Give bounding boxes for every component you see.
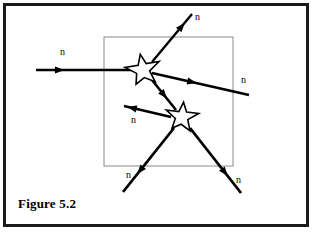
incoming-neutron-ray <box>36 66 131 73</box>
incoming-neutron-ray-arrowhead <box>55 66 65 73</box>
neutron-label-lower-left: n <box>126 170 131 180</box>
emitted-neutron-right <box>152 73 249 95</box>
emitted-neutron-upper-right-line <box>152 14 192 62</box>
neutron-label-incoming: n <box>60 47 65 57</box>
emitted-neutron-upper-right <box>152 14 192 62</box>
neutron-label-upper-right: n <box>195 12 200 22</box>
emitted-neutron-lower-left <box>123 128 174 192</box>
neutron-label-right: n <box>241 75 246 85</box>
figure-caption: Figure 5.2 <box>18 196 76 212</box>
neutron-label-lower-right: n <box>236 175 241 185</box>
neutron-label-left: n <box>131 115 136 125</box>
figure-page: nnnnnn Figure 5.2 <box>0 0 315 232</box>
neutron-between-nuclei <box>152 80 176 110</box>
fission-event-lower <box>166 102 198 131</box>
emitted-neutron-right-line <box>152 73 249 95</box>
emitted-neutron-lower-left-line <box>123 128 174 192</box>
